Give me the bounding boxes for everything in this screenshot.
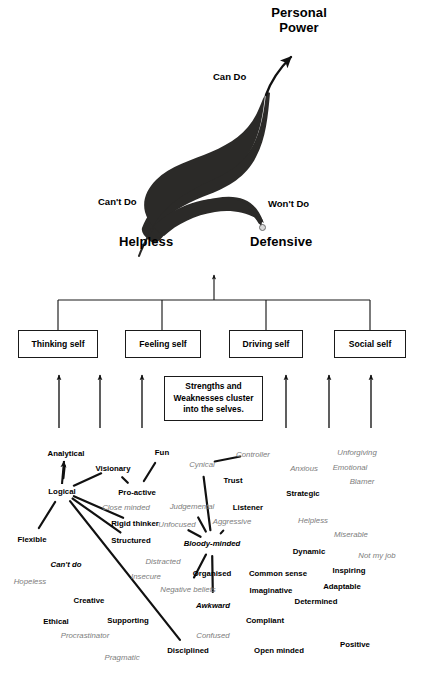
word-cluster-links [39, 457, 240, 640]
word-imaginative[interactable]: Imaginative [250, 586, 293, 595]
word-disciplined[interactable]: Disciplined [167, 646, 209, 655]
word-controller[interactable]: Controller [236, 450, 270, 459]
link-logical-to-visionary [74, 473, 101, 485]
word-pragmatic[interactable]: Pragmatic [104, 653, 139, 662]
personal-power-line1: Personal [244, 6, 354, 21]
power-star-graphic [139, 57, 291, 256]
word-organised[interactable]: Organised [193, 569, 232, 578]
self-box-driving-label: Driving self [243, 339, 290, 349]
self-box-social[interactable]: Social self [334, 330, 406, 358]
word-flexible[interactable]: Flexible [17, 535, 46, 544]
word-emotional[interactable]: Emotional [333, 463, 368, 472]
logical-analytical-arrow [62, 461, 64, 484]
word-strategic[interactable]: Strategic [286, 489, 319, 498]
word-adaptable[interactable]: Adaptable [323, 582, 361, 591]
word-creative[interactable]: Creative [74, 596, 105, 605]
self-box-feeling-label: Feeling self [139, 339, 186, 349]
word-listener[interactable]: Listener [233, 503, 263, 512]
word-blamer[interactable]: Blamer [350, 477, 375, 486]
word-cynical[interactable]: Cynical [189, 460, 215, 469]
word-open-minded[interactable]: Open minded [254, 646, 304, 655]
word-logical[interactable]: Logical [48, 487, 75, 496]
word-fun[interactable]: Fun [155, 448, 169, 457]
word-dynamic[interactable]: Dynamic [293, 547, 326, 556]
word-aggressive[interactable]: Aggressive [213, 517, 252, 526]
word-ethical[interactable]: Ethical [43, 617, 69, 626]
word-procrastinator[interactable]: Procrastinator [61, 631, 110, 640]
defensive-point-marker [259, 224, 266, 231]
self-box-social-label: Social self [349, 339, 392, 349]
word-unfocused[interactable]: Unfocused [158, 520, 195, 529]
word-anxious[interactable]: Anxious [290, 464, 318, 473]
word-distracted[interactable]: Distracted [145, 557, 180, 566]
axis-label-can-do: Can Do [213, 72, 246, 83]
selves-tree-connector [58, 275, 370, 330]
word-negative-beliefs[interactable]: Negative beliefs [160, 585, 215, 594]
word-can-t-do[interactable]: Can't do [51, 560, 82, 569]
word-inspiring[interactable]: Inspiring [333, 566, 366, 575]
cluster-note-line1: Strengths and [185, 381, 241, 392]
word-determined[interactable]: Determined [295, 597, 338, 606]
word-structured[interactable]: Structured [111, 536, 150, 545]
word-awkward[interactable]: Awkward [196, 601, 230, 610]
axis-label-wont-do: Won't Do [268, 199, 309, 210]
link-logical-to-flexible [39, 502, 55, 528]
cluster-note-line3: into the selves. [183, 404, 244, 415]
word-analytical[interactable]: Analytical [48, 449, 85, 458]
word-unforgiving[interactable]: Unforgiving [337, 448, 376, 457]
word-not-my-job[interactable]: Not my job [358, 551, 395, 560]
link-judgemental-to-bloody-minded [198, 517, 206, 531]
word-pro-active[interactable]: Pro-active [118, 488, 156, 497]
word-insecure[interactable]: Insecure [131, 572, 161, 581]
word-confused[interactable]: Confused [196, 631, 229, 640]
link-unfocused-to-bloody-minded [188, 530, 200, 537]
word-hopeless[interactable]: Hopeless [14, 577, 47, 586]
self-box-feeling[interactable]: Feeling self [125, 330, 201, 358]
word-positive[interactable]: Positive [340, 640, 370, 649]
word-trust[interactable]: Trust [223, 476, 242, 485]
diagram-page: Personal Power Can Do Can't Do Won't Do … [0, 0, 425, 686]
axis-label-helpless: Helpless [119, 235, 173, 250]
word-compliant[interactable]: Compliant [246, 616, 284, 625]
word-bloody-minded[interactable]: Bloody-minded [184, 539, 241, 548]
self-box-thinking[interactable]: Thinking self [18, 330, 98, 358]
word-judgemental[interactable]: Judgemental [170, 502, 215, 511]
word-helpless[interactable]: Helpless [298, 516, 328, 525]
word-supporting[interactable]: Supporting [107, 616, 149, 625]
self-box-driving[interactable]: Driving self [229, 330, 303, 358]
self-box-thinking-label: Thinking self [32, 339, 85, 349]
personal-power-title: Personal Power [244, 6, 354, 35]
personal-power-line2: Power [244, 21, 354, 36]
axis-label-cant-do: Can't Do [98, 197, 137, 208]
cluster-note-box: Strengths and Weaknesses cluster into th… [164, 376, 263, 421]
link-aggressive-to-bloody-minded [221, 531, 224, 534]
link-fun-to-pro-active [144, 463, 155, 481]
can-do-arrow [266, 57, 291, 95]
axis-label-defensive: Defensive [250, 235, 312, 250]
word-common-sense[interactable]: Common sense [249, 569, 307, 578]
cluster-note-line2: Weaknesses cluster [174, 393, 254, 404]
link-visionary-to-pro-active [122, 477, 128, 483]
word-miserable[interactable]: Miserable [334, 530, 368, 539]
word-visionary[interactable]: Visionary [96, 464, 131, 473]
word-close-minded[interactable]: Close minded [102, 503, 150, 512]
word-rigid-thinker[interactable]: Rigid thinker [111, 519, 159, 528]
